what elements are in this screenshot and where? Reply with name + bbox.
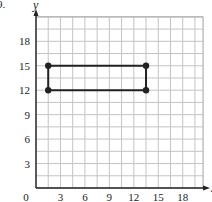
x-axis-arrow-icon xyxy=(203,186,210,191)
y-tick-label: 3 xyxy=(25,158,31,170)
x-tick-label: 12 xyxy=(128,191,139,202)
origin-label: 0 xyxy=(23,191,29,202)
x-axis-label: x xyxy=(210,181,212,195)
vertex-point xyxy=(45,63,51,69)
y-tick-label: 18 xyxy=(19,35,31,47)
x-tick-label: 3 xyxy=(58,191,64,202)
coordinate-plane-chart: 9. xy 0369121518369121518 xyxy=(0,0,212,202)
vertex-point xyxy=(45,87,51,93)
x-tick-label: 18 xyxy=(177,191,189,202)
question-number: 9. xyxy=(0,0,6,10)
x-tick-label: 9 xyxy=(107,191,113,202)
x-tick-label: 15 xyxy=(153,191,165,202)
y-tick-label: 15 xyxy=(19,60,31,72)
vertex-point xyxy=(143,87,149,93)
vertex-point xyxy=(143,63,149,69)
tick-labels: 0369121518369121518 xyxy=(19,35,189,202)
grid-lines xyxy=(36,17,203,188)
x-tick-label: 6 xyxy=(82,191,88,202)
y-tick-label: 9 xyxy=(25,109,31,121)
y-axis-label: y xyxy=(32,0,39,12)
y-tick-label: 12 xyxy=(19,84,30,96)
y-tick-label: 6 xyxy=(25,133,31,145)
